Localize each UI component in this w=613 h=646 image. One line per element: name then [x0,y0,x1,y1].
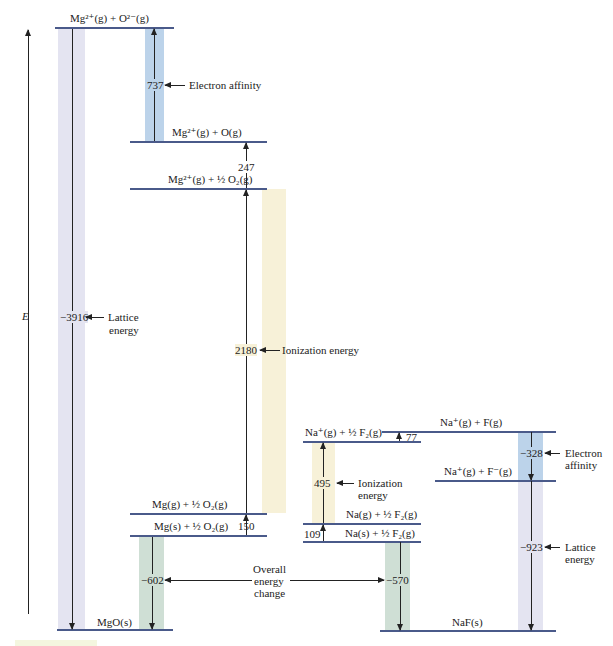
naf-level-na-plus-fminus [435,480,556,482]
naf-level-na-s [303,541,421,543]
overall-pointer-left [165,580,252,581]
naf-ionization-value: 495 [314,477,331,489]
naf-dissociation-value: 77 [406,431,417,443]
mgo-lattice-note-2: energy [109,324,139,336]
naf-dissociation-arrow [399,433,400,441]
mgo-lattice-pointer [86,317,104,318]
mgo-lattice-note-1: Lattice [108,311,139,323]
mgo-lattice-value: −3916 [60,311,88,323]
overall-pointer-right [290,580,384,581]
naf-lattice-note-2: energy [565,553,595,565]
naf-level-na-plus-fminus-label: Na⁺(g) + F⁻(g) [444,465,512,477]
mgo-overall-value: −602 [141,574,164,586]
naf-electron-affinity-pointer [545,453,560,454]
overall-note-2: energy [254,575,284,587]
mgo-sublimation-value: 150 [238,520,255,532]
mgo-ionization-note: Ionization energy [282,344,359,356]
naf-electron-affinity-note-2: affinity [565,459,597,471]
naf-ionization-pointer [337,483,354,484]
naf-lattice-value: −923 [520,541,543,553]
mgo-level-mg-s [130,535,267,537]
naf-electron-affinity-value: −328 [520,447,543,459]
naf-overall-bar [385,542,410,630]
energy-axis-label: E [22,310,29,322]
naf-lattice-pointer [545,547,560,548]
naf-overall-arrow [400,542,401,630]
naf-level-na-plus-f2-label: Na⁺(g) + ½ F₂(g) [305,426,382,438]
color-swatch [15,640,97,646]
mgo-level-mg-s-label: Mg(s) + ½ O₂(g) [154,520,228,532]
naf-level-na-plus-f-label: Na⁺(g) + F(g) [440,416,502,428]
mgo-electron-affinity-value: 737 [147,79,164,91]
naf-sublimation-arrow [323,525,324,541]
mgo-level-mg2-o-label: Mg²⁺(g) + O(g) [172,126,242,138]
naf-level-naf-s-label: NaF(s) [452,616,483,628]
naf-ionization-note-1: Ionization [358,477,403,489]
naf-sublimation-value: 109 [304,528,321,540]
mgo-level-mgo-s-label: MgO(s) [97,616,132,628]
mgo-lattice-arrow [72,29,73,629]
mgo-dissociation-value: 247 [238,161,255,173]
mgo-level-mg-g-label: Mg(g) + ½ O₂(g) [152,498,227,510]
naf-lattice-arrow [531,481,532,630]
naf-overall-value: −570 [386,574,409,586]
naf-level-na-g-label: Na(g) + ½ F₂(g) [346,508,417,520]
overall-note-1: Overall [253,563,286,575]
mgo-level-top-label: Mg²⁺(g) + O²⁻(g) [70,12,149,24]
mgo-ionization-value: 2180 [235,344,257,356]
naf-electron-affinity-note-1: Electron [565,447,602,459]
mgo-electron-affinity-pointer [165,85,185,86]
mgo-electron-affinity-note: Electron affinity [189,79,261,91]
naf-level-na-s-label: Na(s) + ½ F₂(g) [345,527,415,539]
naf-ionization-note-2: energy [358,489,388,501]
naf-lattice-note-1: Lattice [565,541,596,553]
overall-note-3: change [254,587,285,599]
energy-axis-arrow [28,30,29,614]
mgo-level-mg2-o2-label: Mg²⁺(g) + ½ O₂(g) [168,173,253,185]
mgo-ionization-pointer [260,350,280,351]
